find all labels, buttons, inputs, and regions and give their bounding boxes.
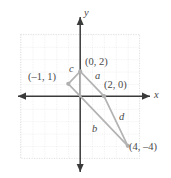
point-label-neg1-1: (–1, 1) xyxy=(28,72,56,83)
point-label-2-0: (2, 0) xyxy=(104,80,127,91)
point-neg1-1 xyxy=(66,82,70,86)
point-label-0-2: (0, 2) xyxy=(85,57,108,68)
segment-label-b: b xyxy=(92,124,97,135)
segment-label-c: c xyxy=(69,64,74,75)
axis-label-x: x xyxy=(154,90,159,101)
point-0-2 xyxy=(78,69,82,73)
point-2-0 xyxy=(102,94,106,98)
coordinate-plane-figure: (0, 2) (–1, 1) (2, 0) (4, –4) a b c d y … xyxy=(0,0,171,178)
axis-label-y: y xyxy=(84,8,89,19)
segment-label-a: a xyxy=(95,71,100,82)
point-label-4-neg4: (4, –4) xyxy=(129,142,157,153)
segment-label-d: d xyxy=(119,112,124,123)
